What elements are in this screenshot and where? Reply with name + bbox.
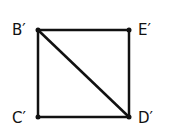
square-diagram: B′ E′ C′ D′ — [0, 0, 172, 138]
diagonal-b-d — [38, 30, 129, 117]
vertex-dot-b — [36, 28, 41, 33]
vertex-dot-d — [127, 115, 132, 120]
vertex-label-e: E′ — [138, 21, 151, 39]
vertex-label-c: C′ — [12, 109, 26, 127]
edges — [38, 30, 129, 117]
vertex-dot-e — [127, 28, 132, 33]
vertex-dot-c — [36, 115, 41, 120]
vertex-label-d: D′ — [138, 109, 154, 127]
vertex-label-b: B′ — [12, 21, 26, 39]
